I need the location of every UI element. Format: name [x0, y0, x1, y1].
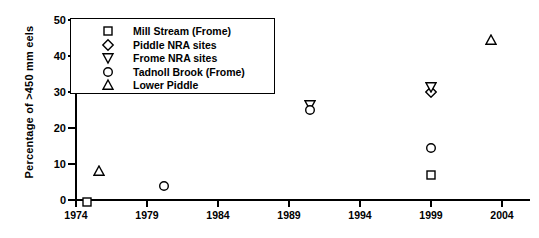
x-tick-label-1984: 1984 [195, 209, 241, 221]
y-tick-label-20: 20 [36, 123, 66, 133]
chart-legend: Mill Stream (Frome)Piddle NRA sitesFrome… [70, 18, 275, 94]
y-tick-label-50: 50 [36, 15, 66, 25]
data-point [81, 194, 93, 206]
x-tick-label-2004: 2004 [479, 209, 525, 221]
x-tick-label-1979: 1979 [124, 209, 170, 221]
data-point [425, 79, 437, 91]
y-tick-10 [68, 163, 75, 165]
y-tick-label-40: 40 [36, 51, 66, 61]
legend-label: Mill Stream (Frome) [133, 24, 231, 38]
x-tick-label-1999: 1999 [408, 209, 454, 221]
legend-label: Tadnoll Brook (Frome) [133, 65, 245, 79]
triangle-up-marker-icon [101, 78, 115, 92]
triangle-down-marker-icon [101, 51, 115, 65]
data-point [158, 178, 170, 190]
y-tick-label-text: 10 [40, 159, 66, 169]
x-tick-label-1974: 1974 [53, 209, 99, 221]
x-tick-1974 [75, 201, 77, 207]
y-tick-label-text: 50 [40, 15, 66, 25]
x-tick-2004 [501, 201, 503, 207]
y-tick-0 [68, 199, 75, 201]
data-point [93, 163, 105, 175]
circle-marker-icon [101, 65, 115, 79]
legend-item-4: Tadnoll Brook (Frome) [71, 65, 276, 79]
y-tick-label-text: 40 [40, 51, 66, 61]
legend-item-5: Lower Piddle [71, 78, 276, 92]
legend-label: Piddle NRA sites [133, 38, 217, 52]
x-tick-label-1994: 1994 [337, 209, 383, 221]
y-tick-label-30: 30 [36, 87, 66, 97]
data-point [485, 32, 497, 44]
legend-label: Lower Piddle [133, 78, 198, 92]
x-axis-line [75, 199, 530, 201]
y-tick-label-text: 0 [40, 195, 66, 205]
data-point [425, 167, 437, 179]
x-tick-1999 [430, 201, 432, 207]
square-marker-icon [101, 24, 115, 38]
legend-label: Frome NRA sites [133, 51, 217, 65]
y-tick-label-10: 10 [36, 159, 66, 169]
x-tick-1994 [359, 201, 361, 207]
y-tick-label-0: 0 [36, 195, 66, 205]
x-tick-label-1989: 1989 [266, 209, 312, 221]
legend-item-3: Frome NRA sites [71, 51, 276, 65]
data-point [304, 102, 316, 114]
y-axis-title: Percentage of >450 mm eels [23, 17, 35, 187]
data-point [425, 140, 437, 152]
y-tick-label-text: 30 [40, 87, 66, 97]
scatter-chart: Percentage of >450 mm eels 01020304050 1… [0, 0, 539, 238]
legend-item-2: Piddle NRA sites [71, 38, 276, 52]
x-tick-1984 [217, 201, 219, 207]
x-tick-1979 [146, 201, 148, 207]
y-tick-label-text: 20 [40, 123, 66, 133]
diamond-marker-icon [101, 38, 115, 52]
y-tick-20 [68, 127, 75, 129]
legend-item-1: Mill Stream (Frome) [71, 24, 276, 38]
x-tick-1989 [288, 201, 290, 207]
